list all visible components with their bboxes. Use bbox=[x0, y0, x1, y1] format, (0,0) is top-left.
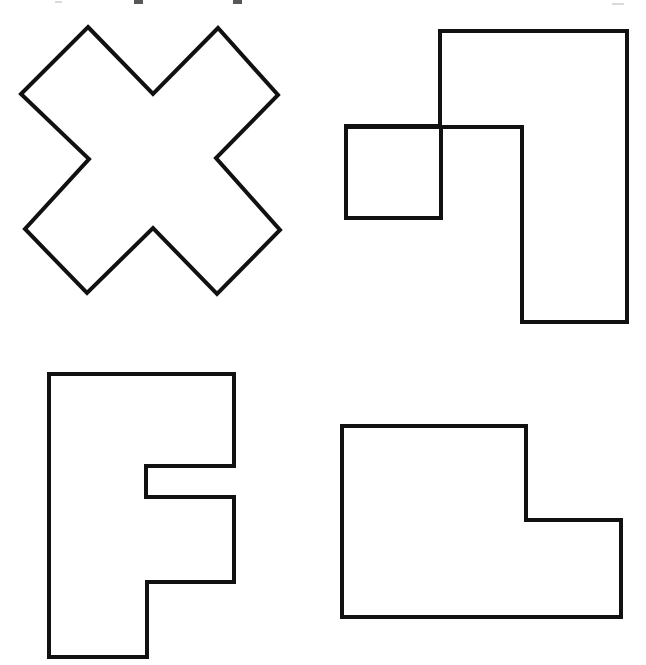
crop-artifact-mark bbox=[612, 3, 624, 5]
letter-f-shape bbox=[49, 374, 234, 657]
crop-artifact-mark bbox=[233, 0, 242, 4]
shapes-canvas bbox=[0, 0, 646, 665]
stepped-l-shape bbox=[342, 426, 621, 617]
worksheet-page bbox=[0, 0, 646, 665]
crop-artifact-mark bbox=[55, 1, 62, 3]
small-square-outline bbox=[346, 126, 441, 218]
crop-artifact-mark bbox=[134, 0, 143, 4]
x-cross-shape bbox=[21, 27, 280, 294]
